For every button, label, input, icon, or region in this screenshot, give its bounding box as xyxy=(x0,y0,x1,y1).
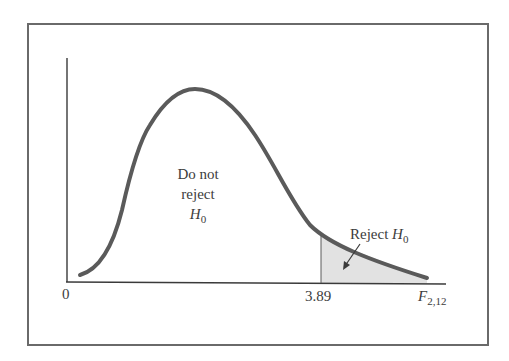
x-axis-label: F2,12 xyxy=(418,289,446,307)
f-density-curve xyxy=(80,89,427,278)
accept-region-label: Do not reject H0 xyxy=(163,164,233,229)
critical-value-label: 3.89 xyxy=(305,289,331,304)
reject-region-label: Reject H0 xyxy=(350,227,408,245)
origin-label: 0 xyxy=(62,287,70,302)
